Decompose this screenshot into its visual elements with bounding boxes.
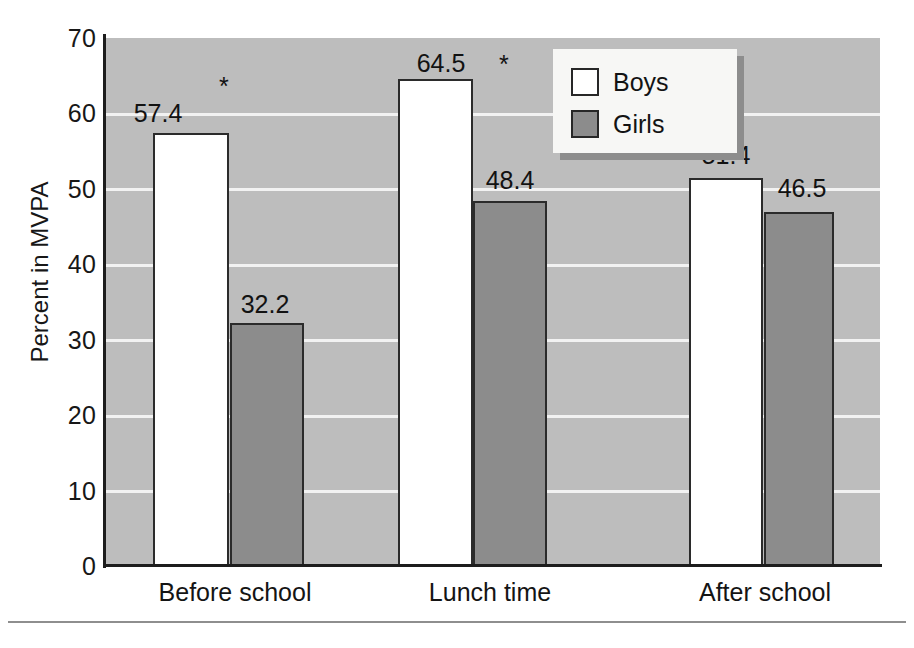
legend-label-boys: Boys xyxy=(613,70,669,95)
bar-boys-before-school[interactable] xyxy=(153,133,229,566)
x-axis-label-lunch-time: Lunch time xyxy=(400,578,580,606)
value-label-boys-lunch-time: 64.5 xyxy=(398,51,484,76)
y-tick-label: 60 xyxy=(10,101,96,126)
y-tick-label: 30 xyxy=(10,328,96,353)
significance-star-lunch-time: * xyxy=(499,52,509,77)
value-label-girls-lunch-time: 48.4 xyxy=(467,168,553,193)
y-tick-label: 40 xyxy=(10,252,96,277)
y-tick-label: 70 xyxy=(10,26,96,51)
figure-bar-chart: Percent in MVPA 70 60 50 40 30 20 10 0 5… xyxy=(0,0,914,648)
legend-swatch-boys-icon xyxy=(571,68,599,96)
y-axis-line xyxy=(103,34,106,568)
x-axis-label-after-school: After school xyxy=(665,578,865,606)
legend: Boys Girls xyxy=(553,49,737,153)
legend-item-boys[interactable]: Boys xyxy=(571,61,737,103)
value-label-boys-before-school: 57.4 xyxy=(115,101,201,126)
y-tick-label: 0 xyxy=(10,554,96,579)
significance-star-before-school: * xyxy=(219,74,229,99)
footer-divider xyxy=(8,621,906,623)
x-axis-label-before-school: Before school xyxy=(130,578,340,606)
value-label-girls-before-school: 32.2 xyxy=(222,292,308,317)
gridline-60 xyxy=(105,113,880,116)
x-axis-line xyxy=(103,564,882,567)
y-tick-label: 10 xyxy=(10,479,96,504)
y-tick-label: 50 xyxy=(10,177,96,202)
bar-boys-after-school[interactable] xyxy=(689,178,763,566)
y-tick-label: 20 xyxy=(10,403,96,428)
value-label-girls-after-school: 46.5 xyxy=(759,176,845,201)
bar-girls-after-school[interactable] xyxy=(764,212,834,566)
bar-girls-lunch-time[interactable] xyxy=(473,201,547,566)
bar-boys-lunch-time[interactable] xyxy=(398,79,473,566)
legend-item-girls[interactable]: Girls xyxy=(571,103,737,145)
legend-swatch-girls-icon xyxy=(571,110,599,138)
bar-girls-before-school[interactable] xyxy=(230,323,304,566)
legend-label-girls: Girls xyxy=(613,112,664,137)
y-axis-tick-labels: 70 60 50 40 30 20 10 0 xyxy=(0,0,96,648)
